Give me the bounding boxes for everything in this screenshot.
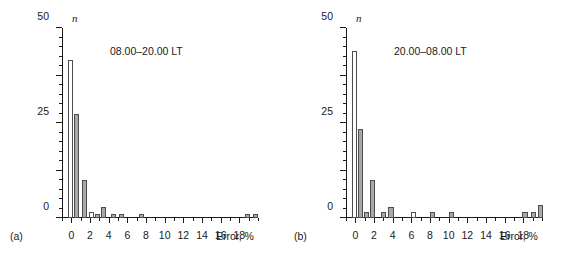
x-tick-b-8: 8	[430, 218, 431, 223]
y-tick-b-70	[343, 84, 346, 85]
x-tick-label-b-10: 10	[443, 229, 455, 241]
bar-a-1	[74, 114, 79, 219]
bar-a-4	[95, 214, 100, 218]
x-tick-a-13	[193, 218, 194, 221]
y-tick-b-25: 25	[340, 170, 346, 171]
y-tick-b-60	[343, 103, 346, 104]
x-tick-label-a-12: 12	[177, 229, 189, 241]
y-tick-b-45	[343, 132, 346, 133]
x-tick-b-16: 16	[505, 218, 506, 223]
y-tick-a-65	[59, 94, 62, 95]
x-tick-b-18: 18	[523, 218, 524, 223]
y-axis-label-a: n	[72, 12, 78, 24]
bar-a-9	[245, 214, 250, 218]
x-tick-b-12: 12	[467, 218, 468, 223]
bar-b-10	[531, 212, 536, 218]
y-tick-a-15	[59, 189, 62, 190]
x-tick-label-b-2: 2	[371, 229, 377, 241]
y-tick-a-85	[59, 56, 62, 57]
x-tick-label-b-18: 18	[517, 229, 529, 241]
x-tick-b-13	[477, 218, 478, 221]
y-tick-a-70	[59, 84, 62, 85]
x-tick-b-1	[365, 218, 366, 221]
x-tick-label-b-14: 14	[480, 229, 492, 241]
y-tick-b-75: 75	[340, 75, 346, 76]
x-tick-a-10: 10	[165, 218, 166, 223]
x-tick-b-11	[458, 218, 459, 221]
x-tick-label-a-4: 4	[106, 229, 112, 241]
x-tick-b-17	[514, 218, 515, 221]
x-tick-a-16: 16	[221, 218, 222, 223]
y-tick-b-30	[343, 160, 346, 161]
x-tick-b-7	[421, 218, 422, 221]
x-tick-a-7	[137, 218, 138, 221]
x-tick-a-18: 18	[239, 218, 240, 223]
x-tick-label-b-4: 4	[390, 229, 396, 241]
y-tick-b-80	[343, 65, 346, 66]
x-tick-label-a-10: 10	[159, 229, 171, 241]
histogram-figure: n 08.00–20.00 LT (a) Error, % 0255075100…	[0, 0, 567, 264]
plot-area-a: 0255075100 024681012141618	[62, 28, 258, 218]
x-tick-a--1	[62, 218, 63, 221]
bar-b-9	[522, 212, 527, 218]
x-tick-b-6: 6	[411, 218, 412, 223]
y-tick-b-85	[343, 56, 346, 57]
x-tick-a-3	[99, 218, 100, 221]
x-tick-label-b-12: 12	[461, 229, 473, 241]
y-tick-label-a-25: 25	[37, 105, 49, 117]
x-tick-b-2: 2	[374, 218, 375, 223]
bar-b-0	[352, 51, 357, 218]
y-tick-label-a-0: 0	[43, 200, 49, 212]
x-tick-a-19	[249, 218, 250, 221]
y-axis-line-a	[62, 28, 63, 218]
y-tick-b-15	[343, 189, 346, 190]
y-tick-a-35	[59, 151, 62, 152]
x-tick-b-4: 4	[393, 218, 394, 223]
x-tick-label-a-2: 2	[87, 229, 93, 241]
y-tick-label-b-50: 50	[321, 10, 333, 22]
y-tick-b-20	[343, 179, 346, 180]
y-tick-b-55	[343, 113, 346, 114]
x-tick-label-b-0: 0	[352, 229, 358, 241]
x-tick-b-3	[383, 218, 384, 221]
y-tick-a-75: 75	[56, 75, 62, 76]
bar-a-8	[139, 214, 144, 218]
x-tick-label-a-14: 14	[196, 229, 208, 241]
bar-b-11	[538, 205, 543, 218]
y-tick-a-20	[59, 179, 62, 180]
y-tick-b-35	[343, 151, 346, 152]
y-tick-b-50: 50	[340, 122, 346, 123]
y-tick-b-40	[343, 141, 346, 142]
x-tick-a-6: 6	[127, 218, 128, 223]
x-tick-b-14: 14	[486, 218, 487, 223]
y-tick-b-100: 100	[340, 27, 346, 28]
bar-b-4	[381, 212, 386, 218]
x-tick-a-0: 0	[71, 218, 72, 223]
x-tick-b-20	[542, 218, 543, 221]
bar-a-5	[101, 207, 106, 218]
x-tick-b-9	[439, 218, 440, 221]
y-tick-a-90	[59, 46, 62, 47]
bar-a-0	[68, 60, 73, 218]
y-tick-a-10	[59, 198, 62, 199]
x-axis-line-b	[346, 217, 542, 218]
y-tick-b-95	[343, 37, 346, 38]
bar-b-1	[358, 129, 363, 218]
x-tick-a-17	[230, 218, 231, 221]
y-tick-a-30	[59, 160, 62, 161]
y-tick-label-b-25: 25	[321, 105, 333, 117]
y-tick-b-65	[343, 94, 346, 95]
x-tick-label-a-0: 0	[68, 229, 74, 241]
x-tick-a-1	[81, 218, 82, 221]
x-tick-a-15	[211, 218, 212, 221]
y-axis-line-b	[346, 28, 347, 218]
x-tick-label-b-8: 8	[427, 229, 433, 241]
x-tick-a-2: 2	[90, 218, 91, 223]
x-tick-a-14: 14	[202, 218, 203, 223]
x-tick-b-15	[495, 218, 496, 221]
panel-b-tag: (b)	[294, 230, 307, 242]
y-tick-a-55	[59, 113, 62, 114]
y-tick-a-50: 50	[56, 122, 62, 123]
bar-b-7	[430, 212, 435, 218]
y-tick-a-95	[59, 37, 62, 38]
